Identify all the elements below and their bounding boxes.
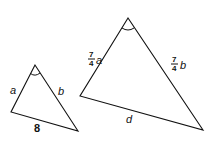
small-side-a-label: a [10, 84, 16, 96]
right-var-b: b [180, 59, 186, 71]
small-side-b-label: b [58, 85, 64, 97]
small-angle-arc [31, 73, 41, 75]
large-triangle: 7 4 a 7 4 b d [80, 18, 203, 130]
small-triangle-outline [11, 65, 78, 131]
left-frac-denominator: 4 [89, 59, 94, 68]
small-side-bottom-label: 8 [34, 122, 40, 134]
large-side-bottom-label: d [126, 113, 133, 125]
right-frac-numerator: 7 [172, 55, 177, 64]
left-var-a: a [96, 54, 102, 66]
similar-triangles-diagram: a b 8 7 4 a 7 4 b d [0, 0, 213, 143]
large-side-left-label: 7 4 a [88, 50, 102, 68]
left-frac-numerator: 7 [89, 50, 94, 59]
right-frac-denominator: 4 [172, 64, 177, 73]
large-side-right-label: 7 4 b [171, 55, 186, 73]
large-triangle-outline [80, 18, 203, 130]
small-triangle: a b 8 [10, 65, 78, 134]
large-angle-arc [122, 28, 134, 30]
